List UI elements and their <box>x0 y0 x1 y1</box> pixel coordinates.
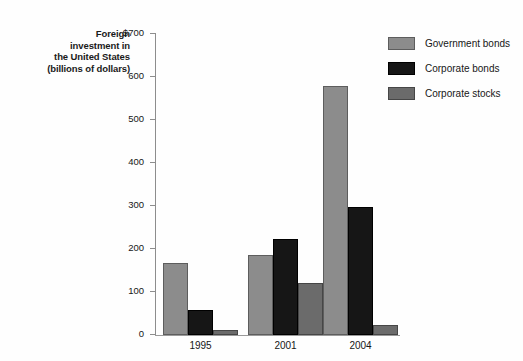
y-axis-tick-label: 0 <box>139 328 144 339</box>
bar-2004-government-bonds <box>323 86 348 335</box>
y-axis-tick: $700 <box>150 33 156 34</box>
y-axis-tick: 400 <box>150 162 156 163</box>
y-axis-title-line-3: the United States <box>18 51 130 63</box>
y-axis-tick: 200 <box>150 248 156 249</box>
y-axis-title-line-2: investment in <box>18 40 130 52</box>
y-axis-tick-label: 400 <box>128 156 144 167</box>
y-axis-tick: 500 <box>150 119 156 120</box>
legend-label-corporate-bonds: Corporate bonds <box>425 63 500 74</box>
bar-2004-corporate-bonds <box>348 207 373 335</box>
legend-label-corporate-stocks: Corporate stocks <box>425 88 501 99</box>
legend-item-corporate-stocks: Corporate stocks <box>388 83 520 104</box>
y-axis-line <box>155 34 156 335</box>
y-axis-tick: 100 <box>150 291 156 292</box>
y-axis-tick-label: 600 <box>128 70 144 81</box>
bar-1995-corporate-stocks <box>213 330 238 335</box>
y-axis-title-line-4: (billions of dollars) <box>18 63 130 75</box>
y-axis-tick: 600 <box>150 76 156 77</box>
bar-1995-government-bonds <box>163 263 188 335</box>
y-axis-tick-label: $700 <box>123 27 144 38</box>
x-axis-tick-label-1995: 1995 <box>189 340 211 351</box>
y-axis-tick-label: 100 <box>128 285 144 296</box>
y-axis-tick: 300 <box>150 205 156 206</box>
chart-legend: Government bonds Corporate bonds Corpora… <box>388 33 520 108</box>
bar-chart: Foreign investment in the United States … <box>0 0 523 361</box>
legend-swatch-government-bonds <box>388 37 415 50</box>
bar-2001-corporate-stocks <box>298 283 323 335</box>
legend-swatch-corporate-stocks <box>388 87 415 100</box>
bar-2004-corporate-stocks <box>373 325 398 335</box>
x-axis-tick-label-2004: 2004 <box>349 340 371 351</box>
x-axis-tick-label-2001: 2001 <box>274 340 296 351</box>
legend-label-government-bonds: Government bonds <box>425 38 510 49</box>
plot-area: 0100200300400500600$700 199520012004 <box>155 30 400 336</box>
y-axis-title-line-1: Foreign <box>18 28 130 40</box>
y-axis-tick-label: 500 <box>128 113 144 124</box>
legend-item-government-bonds: Government bonds <box>388 33 520 54</box>
legend-item-corporate-bonds: Corporate bonds <box>388 58 520 79</box>
legend-swatch-corporate-bonds <box>388 62 415 75</box>
bar-2001-government-bonds <box>248 255 273 335</box>
y-axis-tick: 0 <box>150 334 156 335</box>
y-axis-title: Foreign investment in the United States … <box>18 28 130 74</box>
bar-2001-corporate-bonds <box>273 239 298 335</box>
y-axis-tick-label: 200 <box>128 242 144 253</box>
bar-1995-corporate-bonds <box>188 310 213 335</box>
y-axis-tick-label: 300 <box>128 199 144 210</box>
